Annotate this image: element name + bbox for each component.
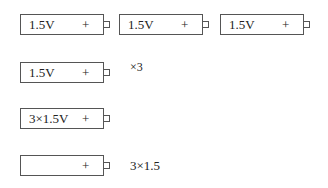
battery-terminal (104, 115, 110, 122)
plus-icon: + (282, 17, 289, 32)
battery-terminal (104, 69, 110, 76)
plus-icon: + (82, 17, 89, 32)
battery-terminal (203, 21, 209, 28)
battery-label: 3×1.5V (29, 111, 68, 126)
multiplier-note: ×3 (130, 60, 143, 75)
plus-icon: + (181, 17, 188, 32)
battery-body (20, 155, 104, 176)
voltage-note: 3×1.5 (130, 158, 160, 173)
battery-label: 1.5V (128, 17, 154, 32)
plus-icon: + (82, 111, 89, 126)
battery-label: 1.5V (29, 65, 55, 80)
battery-terminal (104, 162, 110, 169)
plus-icon: + (82, 65, 89, 80)
battery-label: 1.5V (29, 17, 55, 32)
battery-terminal (304, 21, 310, 28)
plus-icon: + (82, 158, 89, 173)
battery-label: 1.5V (229, 17, 255, 32)
battery-terminal (104, 21, 110, 28)
